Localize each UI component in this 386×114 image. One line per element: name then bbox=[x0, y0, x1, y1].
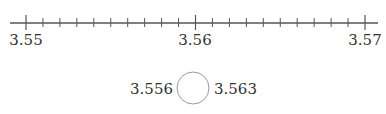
right-number: 3.563 bbox=[214, 80, 257, 98]
tick-label-start: 3.55 bbox=[9, 31, 42, 49]
left-number: 3.556 bbox=[130, 80, 173, 98]
answer-circle[interactable] bbox=[177, 72, 209, 104]
tick-label-end: 3.57 bbox=[348, 31, 381, 49]
number-line-diagram: 3.55 3.56 3.57 3.556 3.563 bbox=[0, 0, 386, 114]
tick-label-mid: 3.56 bbox=[178, 31, 211, 49]
